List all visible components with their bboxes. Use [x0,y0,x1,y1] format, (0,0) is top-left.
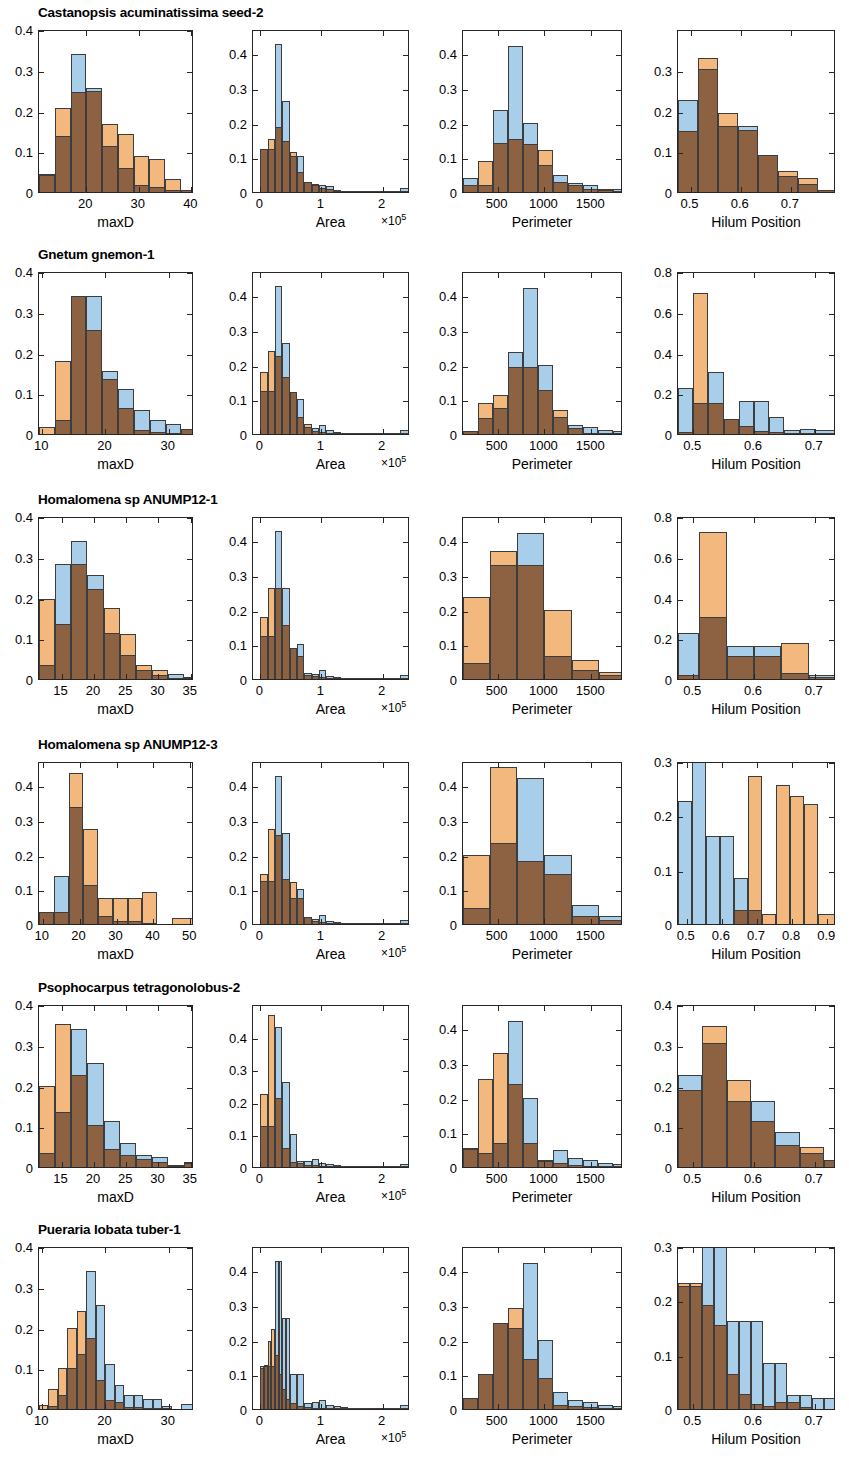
histogram-bar-overlap [613,191,622,192]
y-tick-label: 0 [665,1162,677,1175]
x-tick-label: 0.6 [744,684,762,697]
x-tick-mark [260,518,261,523]
y-tick-mark [403,1376,408,1377]
x-tick-mark [693,674,694,679]
histogram-bar-overlap [55,624,71,679]
bars-layer [253,763,408,924]
y-tick-label: 0.1 [654,864,677,877]
histogram-bar-overlap [613,1408,622,1409]
x-tick-mark [544,1404,545,1409]
panel-maxd: 00.10.20.30.4102030maxD [38,272,193,435]
histogram-bar-overlap [348,433,355,434]
histogram-bar-overlap [304,182,311,192]
y-tick-mark [829,1088,834,1089]
histogram-bar-overlap [493,408,508,434]
histogram-bar-overlap [260,881,267,924]
x-tick-mark [321,1248,322,1253]
x-tick-mark [191,31,192,36]
y-tick-label: 0.4 [15,999,38,1012]
x-tick-mark [260,429,261,434]
panel-maxd: 00.10.20.30.41520253035maxD [38,517,193,680]
y-tick-mark [187,1370,192,1371]
x-tick-mark [42,273,43,278]
x-tick-mark [383,273,384,278]
histogram-bar-overlap [341,1166,348,1167]
histogram-bar [754,401,769,434]
x-tick-mark [321,1162,322,1167]
histogram-bar-overlap [150,432,166,434]
y-tick-label: 0.3 [439,82,462,95]
y-tick-label: 0.1 [439,639,462,652]
y-tick-label: 0.1 [439,1369,462,1382]
y-tick-mark [253,1071,258,1072]
x-tick-mark [62,674,63,679]
histogram-bar-overlap [348,191,355,192]
histogram-bar-overlap [98,916,113,924]
y-tick-mark [253,1307,258,1308]
histogram-bar-overlap [71,1075,87,1167]
histogram-bar-overlap [104,633,120,679]
y-tick-mark [187,822,192,823]
histogram-bar-overlap [152,1162,168,1167]
panel-perimeter: 00.10.20.30.450010001500Perimeter [462,1247,622,1410]
histogram-bar-overlap [370,678,377,679]
y-tick-mark [616,787,621,788]
y-tick-mark [829,518,834,519]
x-tick-label: 1000 [529,439,558,452]
y-tick-mark [39,857,44,858]
bars-layer [678,518,834,679]
x-tick-mark [691,187,692,192]
histogram-bar-overlap [718,126,738,192]
histogram-bar-overlap [392,1166,399,1167]
x-tick-mark [321,674,322,679]
y-tick-mark [39,72,44,73]
x-tick-label: 35 [183,1172,197,1185]
histogram-figure: Castanopsis acuminatissima seed-200.10.2… [0,0,849,1479]
x-tick-mark [757,919,758,924]
y-tick-mark [616,55,621,56]
y-tick-mark [187,559,192,560]
histogram-bar [790,796,804,924]
histogram-bar-overlap [290,156,297,192]
x-tick-mark [544,763,545,768]
y-tick-label: 0.8 [654,511,677,524]
histogram-bar-overlap [400,191,409,192]
histogram-bar-overlap [348,1408,355,1409]
species-row: Psophocarpus tetragonolobus-200.10.20.30… [0,980,849,1222]
histogram-bar-overlap [378,191,385,192]
y-tick-label: 0.2 [439,849,462,862]
x-axis-label: Hilum Position [677,702,835,716]
x-tick-mark [126,1162,127,1167]
y-tick-label: 0.3 [229,1299,252,1312]
histogram-bar-overlap [54,912,69,924]
bars-layer [678,1006,834,1167]
histogram-bar-overlap [319,677,326,679]
histogram-bar-overlap [67,1368,76,1409]
y-tick-mark [678,817,683,818]
histogram-bar-overlap [356,1408,363,1409]
x-tick-mark [544,429,545,434]
x-tick-mark [693,1162,694,1167]
x-tick-label: 0.5 [680,197,698,210]
y-tick-label: 0.3 [229,324,252,337]
panel-hilum-position: 00.10.20.30.50.60.70.80.9Hilum Position [677,762,835,925]
x-tick-label: 20 [86,1172,100,1185]
y-tick-label: 0.3 [439,1299,462,1312]
histogram-bar-overlap [319,188,326,192]
x-tick-mark [591,273,592,278]
panel-area: 00.10.20.30.4012Area×105 [252,1247,409,1410]
y-tick-mark [39,822,44,823]
y-tick-mark [187,314,192,315]
histogram-bar-overlap [378,433,385,434]
plot-axes [252,762,409,925]
x-tick-mark [117,919,118,924]
histogram-bar [748,776,762,924]
x-tick-mark [169,1404,170,1409]
histogram-bar-overlap [312,431,319,434]
x-tick-mark [139,187,140,192]
x-tick-mark [260,674,261,679]
y-tick-label: 0.4 [15,24,38,37]
y-tick-mark [463,90,468,91]
x-tick-mark [498,1248,499,1253]
x-tick-mark [498,674,499,679]
